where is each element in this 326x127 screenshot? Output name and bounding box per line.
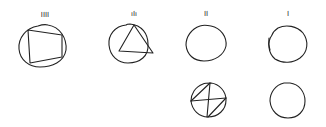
- inscribed-square: [28, 30, 62, 63]
- circle-outline: [269, 26, 307, 62]
- diagonal-line: [208, 98, 226, 117]
- circle-outline: [186, 25, 226, 61]
- figure-label: IIII: [41, 11, 49, 19]
- circle-outline: [109, 24, 148, 63]
- figure-circle-cross: [191, 83, 226, 117]
- figure-circle-two: II: [186, 10, 226, 61]
- sketch-canvas: IIII ıIı II I: [0, 0, 326, 127]
- figure-label: ıIı: [131, 10, 137, 18]
- figure-circle-square: IIII: [19, 11, 66, 67]
- figure-label: I: [287, 10, 289, 18]
- circle-outline: [270, 83, 305, 118]
- figure-circle-one: I: [269, 10, 307, 62]
- figure-circle-empty: [270, 83, 305, 118]
- figure-circle-triangle: ıIı: [109, 10, 153, 63]
- figure-label: II: [204, 10, 208, 18]
